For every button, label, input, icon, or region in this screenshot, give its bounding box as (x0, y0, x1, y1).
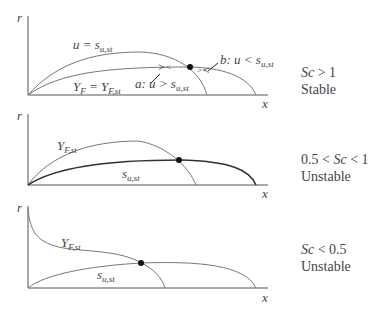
condition-text: Sc > 1 (301, 64, 336, 81)
condition-text: Sc < 0.5 (301, 241, 351, 258)
b-label: b: u < su,st (220, 52, 274, 69)
panel-sc-lt-half: r x YF,st su,st (17, 200, 268, 305)
condition-label-1: Sc > 1 Stable (301, 64, 336, 98)
intersection-point (176, 157, 182, 163)
condition-label-2: 0.5 < Sc < 1 Unstable (301, 151, 369, 185)
s-curve (28, 160, 256, 185)
condition-text: 0.5 < Sc < 1 (301, 151, 369, 168)
stability-diagram: r x ≻< >≺ u = su,st YF = YF,st a: u > su… (0, 0, 375, 315)
stability-text: Stable (301, 81, 336, 98)
panel-sc-gt-1: r x ≻< >≺ u = su,st YF = YF,st a: u > su… (17, 10, 274, 111)
r-axis-label: r (17, 200, 23, 215)
x-axis-label: x (261, 186, 268, 201)
stability-text: Unstable (301, 258, 351, 275)
yf-label: YF,st (57, 138, 77, 155)
r-axis-label: r (17, 108, 23, 123)
x-axis-label: x (261, 290, 268, 305)
panel-sc-between: r x YF,st su,st (17, 108, 268, 201)
condition-label-3: Sc < 0.5 Unstable (301, 241, 351, 275)
marker-b: >≺ (197, 65, 210, 75)
u-label: u = su,st (73, 37, 113, 54)
marker-a: ≻< (158, 62, 171, 72)
yf-label: YF,st (61, 235, 81, 252)
stability-text: Unstable (301, 168, 369, 185)
x-axis-label: x (261, 96, 268, 111)
yf-label: YF = YF,st (73, 79, 121, 96)
r-axis-label: r (17, 10, 23, 25)
intersection-point (138, 260, 144, 266)
s-label: su,st (122, 166, 140, 183)
a-label: a: u > su,st (135, 76, 189, 93)
intersection-point (187, 64, 193, 70)
s-curve (28, 263, 256, 288)
s-label: su,st (97, 267, 115, 284)
